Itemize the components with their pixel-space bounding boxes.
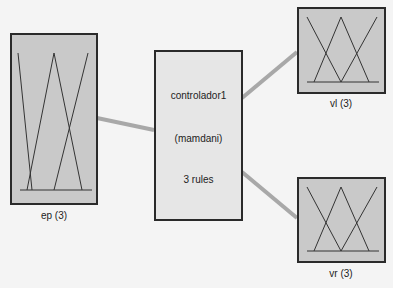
connector-controller-vl [242,52,297,98]
membership-functions-icon [299,9,384,92]
controller-name: controlador1 [156,90,241,101]
output-label-vl: vl (3) [291,98,391,109]
output-variable-vl[interactable] [297,7,386,94]
controller-block[interactable]: controlador1 (mamdani) 3 rules [154,50,243,221]
connector-controller-vr [242,172,297,218]
controller-type: (mamdani) [156,133,241,144]
membership-functions-icon [299,179,384,261]
controller-rules: 3 rules [156,174,241,185]
input-label-ep: ep (3) [4,210,104,221]
membership-functions-icon [12,35,96,203]
input-variable-ep[interactable] [10,33,98,205]
connector-ep-controller [97,118,154,130]
output-label-vr: vr (3) [291,268,391,279]
output-variable-vr[interactable] [297,177,386,263]
